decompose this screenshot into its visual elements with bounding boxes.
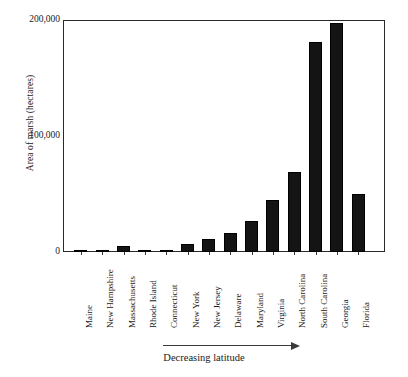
x-tick-mark (294, 252, 295, 255)
bar (288, 172, 301, 252)
arrow-head-icon (291, 342, 300, 350)
x-tick-mark (166, 252, 167, 255)
x-axis-category-labels: MaineNew HampshireMassachusettsRhode Isl… (63, 256, 385, 330)
bar (309, 42, 322, 252)
x-label-florida: Florida (362, 302, 371, 328)
y-tick-label: 200,000 (6, 15, 60, 25)
x-tick-mark (230, 252, 231, 255)
bar (245, 221, 258, 252)
x-label-delaware: Delaware (234, 294, 243, 328)
x-tick-mark (81, 252, 82, 255)
x-label-georgia: Georgia (341, 299, 350, 328)
arrow-line (163, 345, 295, 346)
x-label-new-jersey: New Jersey (213, 286, 222, 328)
x-label-maryland: Maryland (256, 293, 265, 328)
x-tick-mark (124, 252, 125, 255)
x-label-north-carolina: North Carolina (298, 274, 307, 328)
bar (181, 244, 194, 252)
x-tick-mark (358, 252, 359, 255)
bar (266, 200, 279, 252)
x-label-maine: Maine (85, 305, 94, 328)
y-tick-label: 100,000 (6, 131, 60, 141)
x-label-new-york: New York (192, 291, 201, 328)
x-tick-mark (337, 252, 338, 255)
y-tick-label: 0 (6, 247, 60, 257)
x-label-virginia: Virginia (277, 299, 286, 328)
x-tick-mark (209, 252, 210, 255)
x-tick-mark (316, 252, 317, 255)
marsh-area-bar-chart: Area of marsh (hectares) 200,000100,0000… (0, 0, 408, 377)
x-label-connecticut: Connecticut (170, 285, 179, 329)
x-tick-mark (273, 252, 274, 255)
y-axis-tick-labels: 200,000100,0000 (0, 0, 60, 377)
x-axis-title: Decreasing latitude (0, 352, 408, 363)
x-tick-mark (145, 252, 146, 255)
x-tick-mark (252, 252, 253, 255)
bar (352, 194, 365, 252)
bars-layer (63, 20, 385, 252)
x-label-rhode-island: Rhode Island (149, 280, 158, 328)
bar (202, 239, 215, 252)
x-label-massachusetts: Massachusetts (128, 276, 137, 328)
x-tick-mark (102, 252, 103, 255)
x-label-south-carolina: South Carolina (320, 274, 329, 328)
x-label-new-hampshire: New Hampshire (106, 269, 115, 328)
bar (224, 233, 237, 252)
bar (330, 23, 343, 252)
decreasing-latitude-arrow (163, 341, 303, 350)
x-tick-mark (188, 252, 189, 255)
